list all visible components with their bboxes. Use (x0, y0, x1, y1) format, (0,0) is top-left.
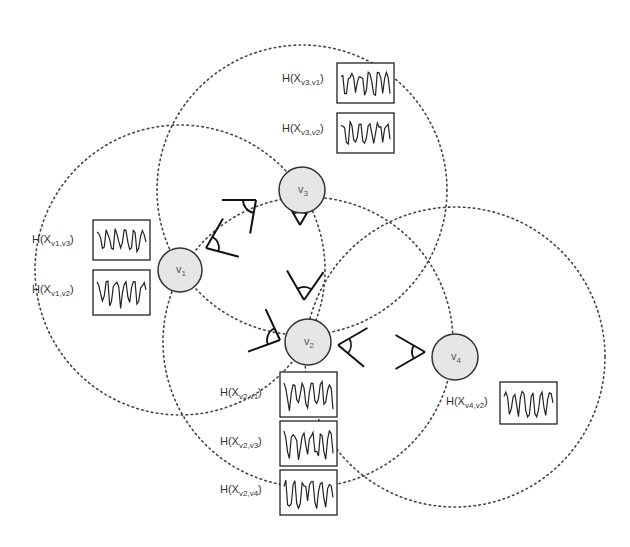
node-v2[interactable]: v2 (285, 319, 331, 365)
histogram-label: H(Xv2,v3) (220, 435, 262, 450)
histogram-box (93, 270, 150, 315)
histogram-h-v3-v2: H(Xv3,v2) (282, 113, 394, 153)
histogram-h-v1-v2: H(Xv1,v2) (32, 270, 150, 315)
histogram-box (280, 372, 337, 417)
histogram-h-v1-v3: H(Xv1,v3) (32, 220, 150, 260)
histogram-label: H(Xv3,v2) (282, 122, 324, 137)
histogram-label: H(Xv2,v4) (220, 483, 262, 498)
node-v4[interactable]: v4 (432, 334, 478, 380)
histogram-label: H(Xv4,v2) (446, 395, 488, 410)
histogram-h-v2-v3: H(Xv2,v3) (220, 421, 337, 466)
histogram-h-v2-v1: H(Xv2,v1) (220, 372, 337, 417)
node-v3[interactable]: v3 (279, 167, 325, 213)
histogram-box (337, 63, 394, 103)
histogram-h-v2-v4: H(Xv2,v4) (220, 470, 337, 515)
histogram-label: H(Xv2,v1) (220, 386, 262, 401)
diagram-canvas: v1v2v3v4H(Xv3,v1)H(Xv3,v2)H(Xv1,v3)H(Xv1… (0, 0, 630, 547)
histogram-h-v3-v1: H(Xv3,v1) (282, 63, 394, 103)
node-v1[interactable]: v1 (158, 248, 202, 292)
view-angle-icon-v2-right (338, 328, 367, 367)
histogram-label: H(Xv1,v2) (32, 283, 74, 298)
view-angle-icon-v4-left (396, 335, 425, 369)
camera-network-diagram: v1v2v3v4H(Xv3,v1)H(Xv3,v2)H(Xv1,v3)H(Xv1… (0, 0, 630, 547)
histogram-label: H(Xv1,v3) (32, 233, 74, 248)
histogram-label: H(Xv3,v1) (282, 72, 324, 87)
histogram-h-v4-v2: H(Xv4,v2) (446, 382, 557, 424)
view-angle-icon-v3-left (222, 200, 256, 233)
